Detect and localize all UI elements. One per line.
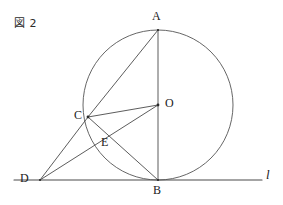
point-label-c: C <box>74 109 82 121</box>
point-b-dot <box>157 179 159 181</box>
segment-ac <box>88 30 158 117</box>
figure-container: 図 2 A O C B D E l <box>0 0 283 205</box>
point-c-dot <box>87 116 90 119</box>
tangent-line-label: l <box>266 168 270 181</box>
point-label-d: D <box>20 172 29 184</box>
segment-cb <box>88 117 158 180</box>
segment-cd <box>40 117 88 180</box>
point-o-dot <box>157 104 160 107</box>
point-label-b: B <box>153 184 161 196</box>
point-label-a: A <box>152 10 161 22</box>
point-label-o: O <box>165 97 174 109</box>
point-label-e: E <box>101 136 108 148</box>
segment-co <box>88 105 158 117</box>
geometry-diagram-svg <box>0 0 283 205</box>
segment-do <box>40 105 158 180</box>
point-a-dot <box>157 29 159 31</box>
point-d-dot <box>39 179 41 181</box>
